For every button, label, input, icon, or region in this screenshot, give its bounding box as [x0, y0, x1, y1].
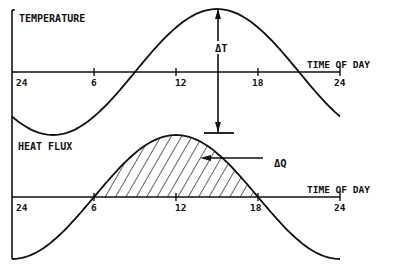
delta-q-label: ΔQ	[274, 157, 287, 169]
heat-flux-hatched-area	[94, 135, 258, 197]
top-tick-label-24-start: 24	[16, 77, 28, 88]
bottom-axis-title: TIME OF DAY	[307, 184, 370, 195]
top-axis-title: TIME OF DAY	[307, 59, 370, 70]
bottom-tick-label-6: 6	[91, 202, 97, 213]
top-tick-label-18: 18	[252, 77, 264, 88]
top-axis-ticks	[94, 66, 340, 76]
bottom-tick-label-24-end: 24	[334, 202, 346, 213]
delta-t-arrow-down-head	[215, 122, 221, 132]
top-tick-label-6: 6	[91, 77, 97, 88]
bottom-tick-label-18: 18	[250, 202, 262, 213]
temperature-title: TEMPERATURE	[19, 13, 85, 24]
top-tick-label-12: 12	[175, 77, 186, 88]
top-tick-label-24-end: 24	[334, 77, 346, 88]
delta-t-label: ΔT	[215, 42, 228, 54]
delta-t-arrow-up-head	[215, 9, 221, 19]
bottom-tick-label-24-start: 24	[16, 202, 28, 213]
heat-flux-title: HEAT FLUX	[18, 141, 72, 152]
bottom-tick-label-12: 12	[175, 202, 186, 213]
temperature-heat-flux-diagram: TEMPERATURE 24 6 12 18 24 TIME OF DAY ΔT…	[0, 0, 401, 266]
